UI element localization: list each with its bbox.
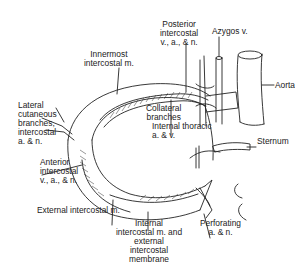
label-posterior-intercostal: Posterior intercostal v., a., & n. [160, 20, 198, 47]
label-line: v., a., & n. [40, 176, 78, 185]
label-line: a. & n. [18, 137, 57, 146]
label-lateral-cutaneous-branches: Lateral cutaneous branches, intercostal … [18, 101, 57, 146]
label-line: a. & n. [200, 228, 241, 237]
label-internal-thoracic: Internal thoracic a. & v. [152, 122, 212, 140]
label-line: intercostal m. [84, 59, 134, 68]
label-line: a. & v. [152, 131, 212, 140]
label-line: intercostal m. and external [110, 228, 188, 246]
label-sternum: Sternum [257, 137, 289, 146]
label-innermost-intercostal: Innermost intercostal m. [84, 50, 134, 68]
label-perforating: Perforating a. & n. [200, 219, 241, 237]
label-internal-intercostal-membrane: Internal intercostal m. and external int… [110, 219, 188, 264]
label-external-intercostal: External intercostal m. [37, 206, 120, 215]
label-aorta: Aorta [275, 81, 295, 90]
intercostal-anatomy-diagram: Posterior intercostal v., a., & n. Azygo… [0, 0, 295, 271]
label-anterior-intercostal: Anterior intercostal v., a., & n. [40, 158, 78, 185]
label-azygos-vein: Azygos v. [212, 27, 248, 36]
label-line: v., a., & n. [160, 38, 198, 47]
label-line: membrane [110, 255, 188, 264]
label-collateral-branches: Collateral branches [146, 104, 181, 122]
